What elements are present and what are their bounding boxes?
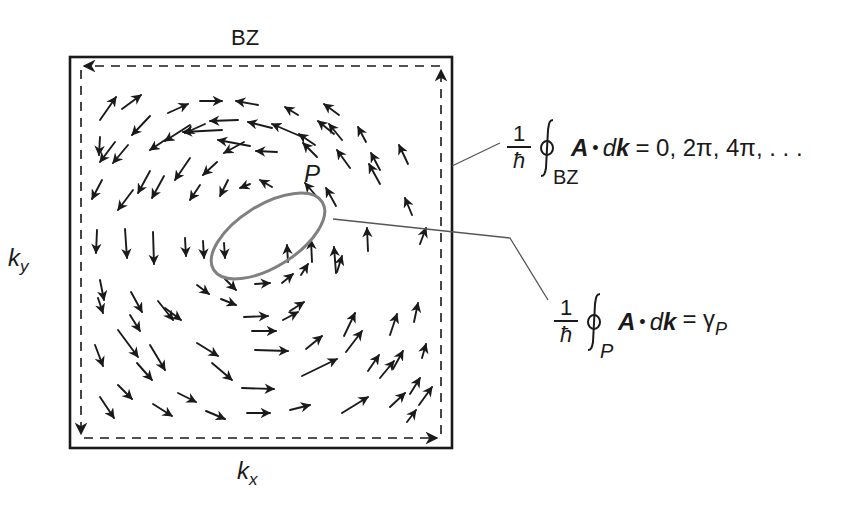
field-arrow [311, 240, 312, 262]
field-arrow [255, 350, 288, 351]
field-arrow [285, 107, 298, 115]
field-arrow [290, 302, 304, 311]
field-arrow [326, 188, 336, 206]
field-arrow [113, 145, 128, 163]
field-arrow [225, 279, 236, 290]
dot-operator: • [639, 312, 645, 333]
field-arrow [324, 104, 339, 115]
d-symbol: d [603, 134, 616, 161]
kx-axis-label: kx [237, 457, 258, 490]
bz-integration-path [81, 66, 441, 438]
field-arrow [212, 363, 232, 380]
field-arrow [337, 150, 350, 168]
field-arrow [367, 228, 368, 251]
field-arrow [132, 116, 150, 135]
bz-label: BZ [231, 25, 259, 51]
field-arrow [197, 343, 218, 356]
field-arrow [118, 330, 138, 357]
kx-sub: x [249, 470, 258, 489]
field-arrow [242, 388, 274, 389]
dot-operator: • [592, 138, 598, 159]
ky-base: k [8, 244, 20, 271]
field-arrow [346, 331, 362, 352]
field-arrow [301, 264, 308, 275]
field-arrow [368, 355, 379, 371]
field-arrow [260, 180, 272, 187]
field-arrow [220, 180, 228, 196]
field-arrow [248, 122, 272, 128]
dk-term: dk [603, 134, 630, 162]
field-arrow [137, 363, 152, 380]
field-arrow [302, 359, 337, 376]
field-arrow [197, 285, 209, 294]
field-arrow [100, 97, 116, 120]
field-arrow [405, 198, 412, 215]
p-equation-rhs: = γP [682, 305, 727, 340]
field-arrow [168, 104, 188, 113]
k-vector: k [663, 308, 676, 335]
field-arrow [414, 303, 418, 322]
loop-p-ellipse [197, 176, 338, 296]
field-arrow [390, 393, 405, 407]
bz-berry-phase-equation: 1 ħ BZ A • dk = 0, 2π, 4π, . . . [507, 118, 803, 178]
hbar-fraction: 1 ħ [507, 122, 531, 174]
field-arrow [100, 280, 104, 300]
field-arrow [203, 241, 204, 258]
field-arrow [218, 140, 250, 146]
d-symbol: d [650, 308, 663, 335]
ky-axis-label: ky [8, 244, 29, 277]
field-arrow [290, 405, 310, 410]
field-arrow [299, 134, 315, 145]
field-arrow [371, 153, 380, 170]
field-arrow [344, 313, 355, 336]
dk-term: dk [650, 308, 677, 336]
field-arrow [92, 180, 102, 199]
field-arrow [393, 351, 403, 369]
field-arrow [118, 190, 133, 210]
field-arrow [283, 312, 298, 320]
field-arrow [95, 345, 103, 366]
field-arrow [175, 158, 190, 180]
fraction-numerator: 1 [557, 296, 575, 320]
field-arrow [407, 410, 416, 422]
field-arrow [178, 393, 196, 402]
vector-a: A [571, 134, 588, 162]
field-arrow [118, 385, 132, 399]
field-arrow [99, 137, 100, 155]
hbar-fraction: 1 ħ [554, 296, 578, 348]
field-arrow [334, 247, 336, 273]
field-arrow [150, 345, 165, 370]
field-arrow [256, 151, 277, 152]
field-arrow [158, 301, 173, 320]
berry-connection-vector-field [92, 95, 432, 422]
field-arrow [337, 256, 342, 272]
ky-sub: y [20, 257, 29, 276]
field-arrow [358, 127, 366, 142]
field-arrow [150, 138, 168, 150]
field-arrow [152, 176, 164, 198]
field-arrow [420, 228, 426, 244]
field-arrow [410, 378, 420, 394]
field-arrow [122, 95, 141, 109]
field-arrow [224, 243, 225, 258]
field-arrow [138, 171, 150, 193]
field-arrow [282, 274, 293, 283]
field-arrow [130, 315, 140, 331]
kx-base: k [237, 457, 249, 484]
field-arrow [240, 184, 250, 188]
field-arrow [272, 124, 300, 136]
field-arrow [185, 238, 186, 256]
field-arrow [380, 361, 394, 378]
fraction-denominator: ħ [513, 148, 525, 174]
berry-phase-diagram [0, 0, 865, 507]
field-arrow [131, 292, 142, 312]
field-arrow [190, 185, 200, 200]
vector-a: A [618, 308, 635, 336]
field-arrow [306, 336, 322, 349]
field-arrow [203, 162, 217, 175]
field-arrow [221, 299, 236, 305]
field-arrow [342, 397, 368, 413]
fraction-denominator: ħ [560, 322, 572, 348]
field-arrow [422, 344, 426, 358]
field-arrow [236, 101, 258, 105]
